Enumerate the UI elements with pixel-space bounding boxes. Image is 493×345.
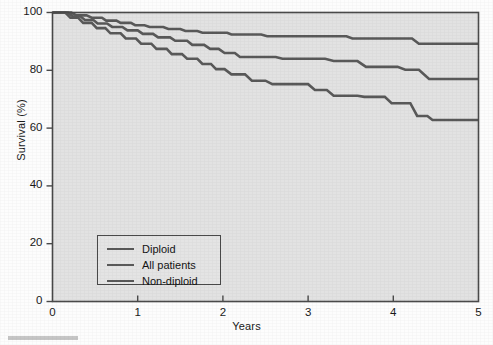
x-tick-label: 1: [126, 306, 150, 318]
legend-line-swatch-all-patients: [107, 264, 134, 266]
y-tick-label: 40: [13, 178, 43, 190]
x-tick-label: 5: [467, 306, 491, 318]
legend-label-all-patients: All patients: [142, 260, 196, 271]
legend-line-swatch-diploid: [107, 248, 134, 250]
y-tick-label: 20: [13, 236, 43, 248]
y-tick-label: 80: [13, 63, 43, 75]
legend-item-non-diploid: Non-diploid: [107, 274, 198, 288]
survival-chart-figure: Survival (%) Years 020406080100012345 Di…: [0, 0, 493, 345]
x-axis-label: Years: [0, 320, 493, 332]
y-tick-label: 100: [13, 5, 43, 17]
legend-label-non-diploid: Non-diploid: [142, 276, 198, 287]
legend-label-diploid: Diploid: [142, 244, 176, 255]
scan-artifact-bar: [8, 336, 78, 340]
plot-canvas: [0, 0, 493, 345]
y-tick-label: 0: [13, 294, 43, 306]
legend-item-all-patients: All patients: [107, 258, 196, 272]
chart-legend: Diploid All patients Non-diploid: [97, 235, 221, 285]
x-tick-label: 4: [381, 306, 405, 318]
legend-item-diploid: Diploid: [107, 242, 176, 256]
x-tick-label: 3: [296, 306, 320, 318]
x-tick-label: 0: [41, 306, 65, 318]
legend-line-swatch-non-diploid: [107, 280, 134, 282]
y-tick-label: 60: [13, 121, 43, 133]
x-tick-label: 2: [211, 306, 235, 318]
